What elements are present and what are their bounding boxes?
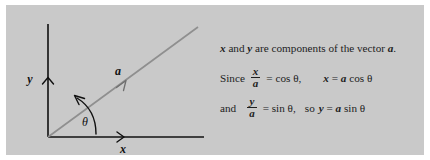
line2-result-fn: cos θ — [346, 72, 372, 84]
x-axis-label: x — [119, 142, 126, 156]
fraction-denominator: a — [247, 108, 257, 119]
fraction-denominator: a — [251, 78, 261, 89]
figure-root: y x a θ x and y are components of the ve… — [0, 0, 430, 160]
line2-result-eq: = — [329, 72, 341, 84]
figure-panel: y x a θ x and y are components of the ve… — [6, 5, 424, 155]
line1-period: . — [393, 42, 396, 54]
y-axis-label: y — [25, 72, 33, 86]
vector-diagram: y x a θ — [6, 5, 221, 160]
line2-since: Since — [220, 72, 245, 84]
explanation-text-block: x and y are components of the vector a. … — [220, 39, 426, 135]
vector-label: a — [115, 64, 121, 78]
line3-and: and — [220, 102, 236, 114]
explanation-line-3: andya= sin θ,soy = a sin θ — [220, 96, 426, 119]
line3-equals-sin: = sin θ, — [263, 102, 296, 114]
line3-result-eq: = — [324, 102, 336, 114]
explanation-line-2: Sincexa= cos θ,x = a cos θ — [220, 66, 426, 89]
angle-label: θ — [82, 115, 88, 129]
fraction-numerator: y — [247, 96, 257, 106]
line3-so: so — [305, 102, 315, 114]
explanation-line-1: x and y are components of the vector a. — [220, 42, 426, 55]
diagram-svg: y x a θ — [6, 5, 221, 160]
fraction-numerator: x — [251, 66, 261, 76]
line3-result-fn: sin θ — [341, 102, 365, 114]
line1-and: and — [226, 42, 248, 54]
fraction-x-over-a: xa — [251, 66, 261, 89]
line1-middle: are components of the vector — [252, 42, 387, 54]
fraction-y-over-a: ya — [247, 96, 257, 119]
line2-equals-cos: = cos θ, — [266, 72, 301, 84]
